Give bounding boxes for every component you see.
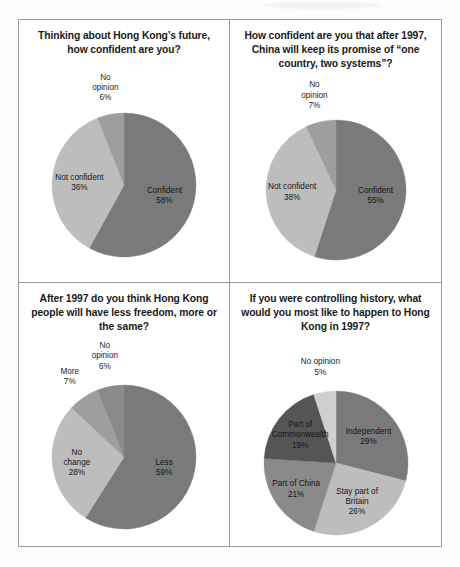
pie-wrap-controlling-history: Independent 29%Stay part of Britain 26%P… <box>230 335 441 531</box>
pie-chart-controlling-history <box>241 363 431 546</box>
chart-title-controlling-history: If you were controlling history, what wo… <box>230 283 441 335</box>
pie-chart-freedom-after-1997 <box>29 357 219 546</box>
scan-artifact <box>262 2 382 9</box>
chart-cell-confidence-future: Thinking about Hong Kong’s future, how c… <box>19 20 230 283</box>
pie-chart-confidence-future <box>29 85 219 275</box>
chart-title-one-country-two-systems: How confident are you that after 1997, C… <box>230 20 441 72</box>
pie-wrap-one-country-two-systems: Confident 55%Not confident 38%No opinion… <box>230 72 441 268</box>
pie-wrap-freedom-after-1997: Less 59%No change 28%More 7%No opinion 6… <box>19 335 229 531</box>
pie-chart-one-country-two-systems <box>241 94 431 283</box>
chart-grid-table: Thinking about Hong Kong’s future, how c… <box>18 19 442 547</box>
chart-cell-freedom-after-1997: After 1997 do you think Hong Kong people… <box>19 283 230 546</box>
chart-cell-controlling-history: If you were controlling history, what wo… <box>230 283 441 546</box>
chart-cell-one-country-two-systems: How confident are you that after 1997, C… <box>230 20 441 283</box>
chart-title-confidence-future: Thinking about Hong Kong’s future, how c… <box>19 20 229 57</box>
survey-pie-chart-page: Thinking about Hong Kong’s future, how c… <box>0 0 460 567</box>
chart-title-freedom-after-1997: After 1997 do you think Hong Kong people… <box>19 283 229 335</box>
pie-wrap-confidence-future: Confident 58%Not confident 36%No opinion… <box>19 57 229 253</box>
